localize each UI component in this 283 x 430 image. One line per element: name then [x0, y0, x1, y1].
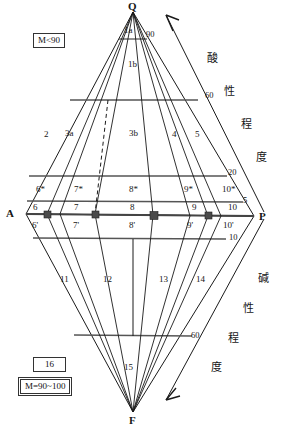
zone-label-3a: 3a	[65, 129, 74, 138]
lower-radial-lines	[47, 214, 221, 412]
vertex-label-p: P	[259, 211, 266, 222]
annotation-box-zone-16: 16	[33, 357, 66, 372]
vertex-label-q: Q	[128, 1, 137, 12]
zone-label-9: 9	[192, 203, 197, 212]
annotation-box-m-less-90: M<90	[33, 33, 65, 48]
zone-label-8: 8	[130, 203, 135, 212]
alkalinity-char-2: 性	[243, 303, 254, 314]
acidity-char-2: 性	[224, 86, 235, 97]
zone-label-13: 13	[159, 275, 168, 284]
zone-label-6-star: 6*	[36, 185, 45, 194]
tick-label-10: 10	[229, 233, 238, 242]
alkalinity-char-1: 碱	[258, 273, 269, 284]
zone-label-8-star: 8*	[129, 185, 138, 194]
tick-label-5: 5	[243, 196, 247, 205]
vertex-label-f: F	[129, 415, 136, 426]
zone-label-7-prime: 7'	[73, 221, 79, 230]
tick-label-90-top: 90	[146, 30, 155, 39]
acidity-char-1: 酸	[207, 53, 218, 64]
zone-label-10-star: 10*	[222, 185, 236, 194]
diagram-canvas: Q A P F 1a 1b 2 3a 3b 4 5 6* 7* 8* 9* 10…	[0, 0, 283, 430]
tick-label-20: 20	[228, 168, 237, 177]
zone-label-1b: 1b	[128, 60, 137, 69]
zone-label-7: 7	[74, 203, 79, 212]
annotation-box-m-90-100: M=90~100	[20, 379, 70, 394]
zone-label-7-star: 7*	[74, 185, 83, 194]
acidity-char-3: 程	[241, 119, 252, 130]
zone-label-14: 14	[196, 275, 205, 284]
zone-label-15: 15	[124, 363, 133, 372]
zone-label-12: 12	[103, 275, 112, 284]
zone-label-9-prime: 9'	[187, 221, 193, 230]
tick-label-60-upper: 60	[205, 91, 214, 100]
zone-label-11: 11	[60, 275, 69, 284]
vertex-label-a: A	[6, 208, 14, 219]
zone-label-6-prime: 6'	[32, 221, 38, 230]
acidity-char-4: 度	[256, 152, 267, 163]
zone-label-6: 6	[33, 203, 38, 212]
tick-label-60-lower: 60	[191, 331, 200, 340]
zone-label-8-prime: 8'	[129, 221, 135, 230]
zone-label-10: 10	[228, 203, 237, 212]
zone-label-3b: 3b	[129, 129, 138, 138]
zone-label-1a: 1a	[124, 26, 133, 35]
zone-label-4: 4	[172, 130, 177, 139]
zone-label-5: 5	[195, 130, 200, 139]
alkalinity-char-4: 度	[211, 362, 222, 373]
zone-label-9-star: 9*	[184, 185, 193, 194]
zone-label-10-prime: 10'	[223, 221, 234, 230]
alkalinity-char-3: 程	[228, 333, 239, 344]
zone-label-2: 2	[44, 130, 49, 139]
lower-chords	[33, 238, 226, 336]
